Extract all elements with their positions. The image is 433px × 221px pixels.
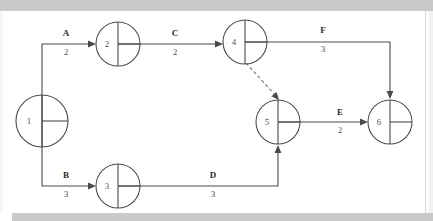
edge-dummy-path: [246, 63, 276, 96]
node-6-label: 6: [377, 117, 382, 127]
node-5[interactable]: 5: [256, 100, 300, 144]
edge-f-label: F: [320, 25, 326, 35]
node-2[interactable]: 2: [96, 22, 140, 66]
edge-c-label: C: [172, 28, 179, 38]
edge-e-label: E: [337, 107, 343, 117]
network-diagram: A 2 B 3 C 2 D 3 E 2: [0, 0, 433, 221]
edge-c-duration: 2: [173, 47, 177, 57]
edge-dummy: [246, 63, 279, 100]
edge-e-duration: 2: [338, 125, 342, 135]
edge-dummy-arrowhead: [271, 92, 279, 100]
edge-c-arrowhead: [215, 41, 223, 48]
edge-a-duration: 2: [64, 47, 68, 57]
edge-a-label: A: [63, 28, 70, 38]
node-4-label: 4: [232, 37, 237, 47]
edge-d: D 3: [118, 145, 281, 199]
edge-d-path: [118, 150, 278, 186]
node-2-label: 2: [105, 39, 110, 49]
edge-f-arrowhead: [387, 91, 394, 99]
node-3-label: 3: [105, 181, 110, 191]
edge-b-arrowhead: [88, 183, 96, 190]
node-5-label: 5: [265, 117, 270, 127]
edge-a: A 2: [42, 28, 96, 121]
node-1[interactable]: 1: [16, 95, 68, 147]
edge-d-duration: 3: [211, 189, 215, 199]
edge-b-duration: 3: [64, 189, 68, 199]
node-6[interactable]: 6: [368, 100, 412, 144]
edge-e-arrowhead: [360, 119, 368, 126]
edge-f-duration: 3: [321, 44, 325, 54]
node-1-label: 1: [27, 116, 32, 126]
edge-e: E 2: [278, 107, 368, 135]
node-3[interactable]: 3: [96, 164, 140, 208]
edge-f: F 3: [245, 25, 393, 99]
edge-b: B 3: [42, 121, 96, 199]
edge-b-label: B: [63, 170, 69, 180]
edge-a-arrowhead: [88, 41, 96, 48]
edge-d-label: D: [210, 170, 217, 180]
node-4[interactable]: 4: [223, 20, 267, 64]
edge-c: C 2: [118, 28, 223, 57]
diagram-page: A 2 B 3 C 2 D 3 E 2: [0, 0, 433, 221]
edge-d-arrowhead: [275, 145, 282, 153]
